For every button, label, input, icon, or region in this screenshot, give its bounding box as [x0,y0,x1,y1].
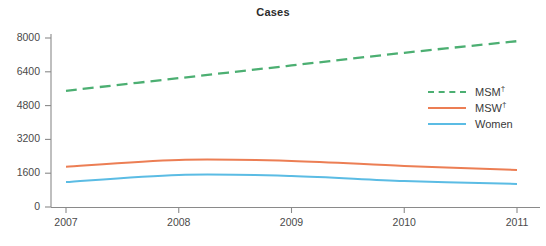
legend-item-msm[interactable]: MSM† [428,84,540,100]
y-tick-label: 1600 [0,166,40,178]
legend-label: Women [475,118,513,130]
legend-label-dagger: † [502,100,506,109]
legend-swatch-women-icon [428,119,466,130]
legend-swatch-msw-icon [428,103,466,114]
x-tick-label: 2011 [495,216,539,228]
x-tick-label: 2010 [382,216,426,228]
series-line-msw [66,159,517,170]
x-tick-label: 2008 [157,216,201,228]
legend-label-dagger: † [501,84,505,93]
chart-figure: Cases 016003200480064008000 200720082009… [0,0,546,246]
y-tick-label: 4800 [0,99,40,111]
legend-item-women[interactable]: Women [428,116,540,132]
chart-legend: MSM†MSW†Women [428,84,540,132]
y-tick-label: 8000 [0,31,40,43]
legend-swatch-msm-icon [428,87,466,98]
y-tick-label: 0 [0,200,40,212]
y-tick-marks [45,38,51,207]
y-tick-label: 3200 [0,132,40,144]
x-tick-label: 2007 [44,216,88,228]
y-tick-label: 6400 [0,65,40,77]
x-tick-label: 2009 [270,216,314,228]
series-line-women [66,174,517,183]
legend-label: MSM† [475,86,505,98]
legend-item-msw[interactable]: MSW† [428,100,540,116]
legend-label: MSW† [475,102,506,114]
